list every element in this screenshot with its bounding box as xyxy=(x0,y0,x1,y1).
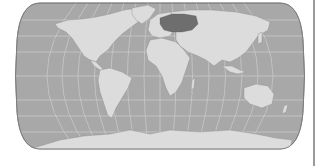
edge-divider xyxy=(313,0,315,166)
highlighted-region xyxy=(160,14,198,32)
world-map-svg xyxy=(0,0,317,166)
japan xyxy=(258,32,262,44)
world-map xyxy=(0,0,317,166)
